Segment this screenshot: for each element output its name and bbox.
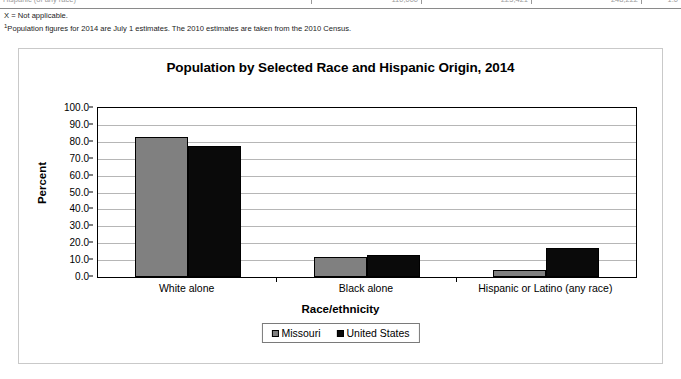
y-axis-tick-mark [89,123,93,124]
gridline [98,125,636,126]
y-axis-tick-mark [89,191,93,192]
x-axis-labels: White aloneBlack aloneHispanic or Latino… [97,282,637,298]
x-axis-tick-label: White alone [159,282,214,294]
y-axis-tick-label: 90.0 [43,118,89,129]
y-axis-tick-mark [89,174,93,175]
table-row: Hispanic (of any race) 110,000 225,421 2… [0,0,681,9]
table-cell-value-4: 1.0 [641,0,681,4]
chart-title: Population by Selected Race and Hispanic… [19,60,662,75]
y-axis-tick-label: 30.0 [43,220,89,231]
bar-united-states-white-alone [188,146,241,277]
table-cell-label: Hispanic (of any race) [0,0,311,4]
y-axis-tick-label: 20.0 [43,237,89,248]
bar-missouri-hispanic-or-latino-any-race [493,270,546,277]
bar-united-states-black-alone [367,255,420,277]
plot-area [97,107,637,278]
y-axis-tick-mark [89,276,93,277]
y-axis-tick-label: 50.0 [43,186,89,197]
y-axis-tick-label: 70.0 [43,152,89,163]
legend-item-united-states: United States [337,327,410,339]
bar-missouri-black-alone [314,257,367,277]
chart-container: Population by Selected Race and Hispanic… [18,48,663,364]
y-axis-labels: 0.010.020.030.040.050.060.070.080.090.01… [43,100,93,285]
x-axis-tick-label: Hispanic or Latino (any race) [478,282,612,294]
y-axis-tick-mark [89,107,93,108]
y-axis-tick-mark [89,242,93,243]
x-axis-tick-label: Black alone [339,282,393,294]
footnote-population: 1Population figures for 2014 are July 1 … [4,21,664,34]
x-axis-tick-mark [276,277,277,282]
legend-swatch-icon [337,330,344,337]
y-axis-tick-mark [89,208,93,209]
x-axis-tick-mark [456,277,457,282]
footnote-population-text: Population figures for 2014 are July 1 e… [7,24,351,33]
y-axis-tick-label: 80.0 [43,135,89,146]
table-cell-value-1: 110,000 [311,0,421,4]
y-axis-tick-label: 40.0 [43,203,89,214]
y-axis-tick-label: 100.0 [43,102,89,113]
footnote-not-applicable: X = Not applicable. [4,10,664,21]
legend-item-missouri: Missouri [271,327,320,339]
bar-united-states-hispanic-or-latino-any-race [546,248,599,277]
legend-label: Missouri [281,327,320,339]
y-axis-tick-mark [89,140,93,141]
y-axis-tick-mark [89,259,93,260]
footnotes: X = Not applicable. 1Population figures … [4,10,664,34]
x-axis-title: Race/ethnicity [19,303,662,315]
legend-swatch-icon [271,330,278,337]
y-axis-tick-label: 0.0 [43,271,89,282]
table-cell-value-2: 225,421 [421,0,531,4]
y-axis-tick-label: 10.0 [43,254,89,265]
legend-label: United States [347,327,410,339]
table-fragment: Hispanic (of any race) 110,000 225,421 2… [0,0,681,9]
y-axis-tick-label: 60.0 [43,169,89,180]
chart-legend: MissouriUnited States [261,323,419,343]
table-cell-value-3: 248,222 [531,0,641,4]
y-axis-tick-mark [89,157,93,158]
y-axis-tick-mark [89,225,93,226]
bar-missouri-white-alone [135,137,188,277]
